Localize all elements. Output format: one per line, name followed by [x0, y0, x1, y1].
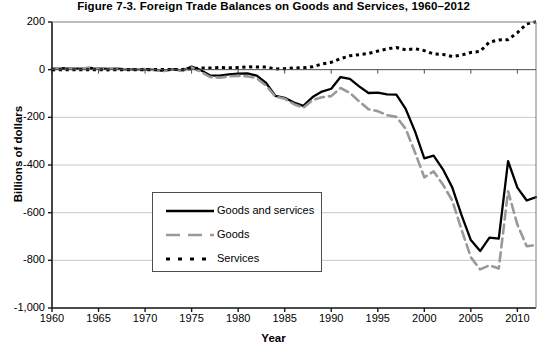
series-line-services: [52, 22, 536, 70]
figure-container: Figure 7-3. Foreign Trade Balances on Go…: [0, 0, 547, 348]
plot-canvas: [0, 0, 547, 348]
legend-item[interactable]: Goods and services: [153, 201, 323, 221]
legend-label: Services: [217, 252, 259, 264]
legend-label: Goods: [217, 228, 249, 240]
legend-item[interactable]: Services: [153, 249, 323, 269]
legend: Goods and servicesGoodsServices: [152, 192, 322, 272]
legend-swatch-services-icon: [166, 249, 214, 269]
legend-label: Goods and services: [217, 204, 314, 216]
legend-swatch-goods-and-services-icon: [166, 201, 214, 221]
legend-item[interactable]: Goods: [153, 225, 323, 245]
legend-swatch-goods-icon: [166, 225, 214, 245]
